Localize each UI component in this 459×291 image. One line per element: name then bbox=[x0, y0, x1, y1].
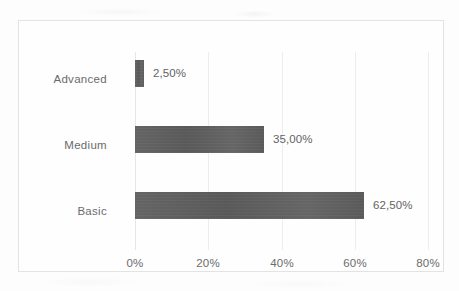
xtick-label-80: 80% bbox=[388, 257, 459, 269]
bar-advanced[interactable] bbox=[135, 60, 144, 87]
bar-medium[interactable] bbox=[135, 126, 264, 153]
xtick-label-60: 60% bbox=[315, 257, 395, 269]
value-label-medium: 35,00% bbox=[273, 133, 313, 145]
value-label-basic: 62,50% bbox=[373, 199, 413, 211]
category-label-advanced: Advanced bbox=[19, 73, 107, 85]
chart-frame: Advanced Medium Basic 2,50% 35,00% 62,50… bbox=[18, 20, 444, 272]
xtick-label-0: 0% bbox=[95, 257, 175, 269]
bar-basic[interactable] bbox=[135, 192, 364, 219]
gridline-60 bbox=[355, 52, 356, 250]
value-label-advanced: 2,50% bbox=[153, 67, 186, 79]
category-label-medium: Medium bbox=[19, 139, 107, 151]
category-label-basic: Basic bbox=[19, 205, 107, 217]
gridline-40 bbox=[282, 52, 283, 250]
plot-area: 2,50% 35,00% 62,50% bbox=[135, 52, 429, 250]
xtick-label-40: 40% bbox=[242, 257, 322, 269]
gridline-80 bbox=[428, 52, 429, 250]
xtick-label-20: 20% bbox=[168, 257, 248, 269]
